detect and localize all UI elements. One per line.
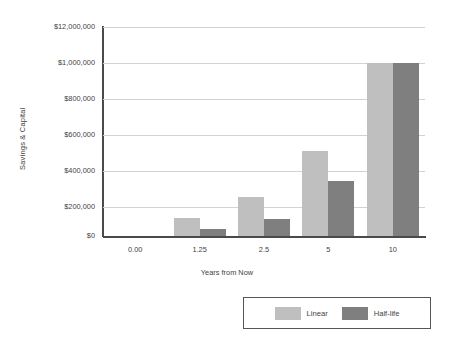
bar-chart: Savings & Capital $0$200,000$400,000$600… bbox=[0, 0, 454, 344]
chart-legend: LinearHalf-life bbox=[243, 297, 431, 329]
legend-label: Half-life bbox=[374, 309, 400, 318]
plot-area: $0$200,000$400,000$600,000$800,000$1,000… bbox=[103, 27, 425, 236]
bar-group bbox=[296, 27, 360, 236]
bar-half-life[interactable] bbox=[328, 181, 354, 236]
y-axis-tick-label: $1,000,000 bbox=[7, 58, 95, 67]
bar-group bbox=[361, 27, 425, 236]
bar-linear[interactable] bbox=[367, 63, 393, 236]
legend-label: Linear bbox=[307, 309, 328, 318]
legend-swatch bbox=[275, 307, 301, 320]
bar-linear[interactable] bbox=[302, 151, 328, 236]
bar-half-life[interactable] bbox=[393, 63, 419, 236]
bar-group bbox=[232, 27, 296, 236]
x-axis-title: Years from Now bbox=[0, 268, 454, 277]
x-axis-tick-label: 0.00 bbox=[103, 245, 167, 254]
y-axis-tick-label: $12,000,000 bbox=[7, 22, 95, 31]
x-axis-tick-label: 2.5 bbox=[232, 245, 296, 254]
bar-half-life[interactable] bbox=[264, 219, 290, 236]
y-axis-title: Savings & Capital bbox=[18, 50, 27, 170]
bar-group bbox=[103, 27, 167, 236]
bar-half-life[interactable] bbox=[200, 229, 226, 236]
x-axis-tick-label: 10 bbox=[361, 245, 425, 254]
bar-linear[interactable] bbox=[238, 197, 264, 236]
gridline bbox=[103, 236, 425, 237]
x-axis-tick-label: 5 bbox=[296, 245, 360, 254]
bar-group bbox=[167, 27, 231, 236]
y-axis-tick-label: $600,000 bbox=[7, 130, 95, 139]
y-axis-tick-label: $0 bbox=[7, 231, 95, 240]
legend-swatch bbox=[342, 307, 368, 320]
y-axis-tick-label: $800,000 bbox=[7, 94, 95, 103]
legend-entry-linear[interactable]: Linear bbox=[275, 307, 328, 320]
legend-entry-half-life[interactable]: Half-life bbox=[342, 307, 400, 320]
x-axis-tick-label: 1.25 bbox=[167, 245, 231, 254]
y-axis-tick-label: $200,000 bbox=[7, 202, 95, 211]
bar-linear[interactable] bbox=[174, 218, 200, 236]
y-axis-tick-label: $400,000 bbox=[7, 166, 95, 175]
